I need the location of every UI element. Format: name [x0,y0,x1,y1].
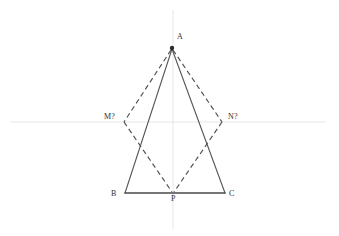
geometry-figure: A B C P M? N? [0,0,339,236]
segment-AC [172,49,225,193]
segment-AB [125,49,172,193]
solid-edge-group [125,49,225,193]
point-label-C: C [229,190,235,198]
point-label-N: N? [228,113,238,121]
vertex-dot-group [170,46,174,50]
segment-NP [174,122,222,192]
segment-AM [124,50,171,122]
point-label-P: P [171,195,176,203]
axis-group [10,10,326,229]
segment-MP [124,122,172,192]
vertex-dot-A [170,46,174,50]
point-label-A: A [177,33,183,41]
point-label-B: B [111,190,117,198]
geometry-canvas [0,0,339,236]
point-label-M: M? [104,113,115,121]
segment-AN [173,50,222,122]
